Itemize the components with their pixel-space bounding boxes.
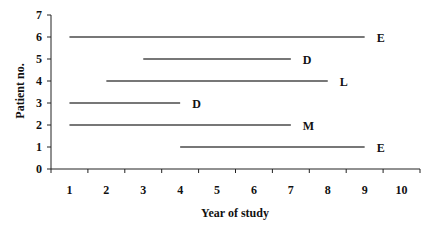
y-tick-label: 1 (36, 140, 42, 154)
y-axis-ticks: 01234567 (36, 8, 51, 176)
y-tick-label: 5 (36, 52, 42, 66)
outcome-label: M (303, 119, 314, 133)
patient-line-5: D (143, 53, 312, 67)
patient-line-4: L (106, 75, 347, 89)
y-axis-label: Patient no. (13, 63, 27, 118)
patient-line-2: M (69, 119, 314, 133)
outcome-label: E (377, 31, 385, 45)
x-tick-label: 10 (396, 183, 408, 197)
patient-lines: EDLDME (69, 31, 384, 155)
x-tick-label: 2 (103, 183, 109, 197)
x-axis-ticks: 12345678910 (51, 169, 420, 197)
outcome-label: D (192, 97, 201, 111)
y-tick-label: 7 (36, 8, 42, 22)
patient-line-6: E (69, 31, 384, 45)
x-tick-label: 6 (251, 183, 257, 197)
x-tick-label: 8 (325, 183, 331, 197)
x-tick-label: 9 (362, 183, 368, 197)
x-tick-label: 4 (177, 183, 183, 197)
x-axis-label: Year of study (201, 206, 269, 220)
x-tick-label: 3 (140, 183, 146, 197)
x-tick-label: 5 (214, 183, 220, 197)
x-tick-label: 7 (288, 183, 294, 197)
patient-line-3: D (69, 97, 201, 111)
patient-line-1: E (180, 141, 385, 155)
y-tick-label: 3 (36, 96, 42, 110)
outcome-label: L (340, 75, 348, 89)
outcome-label: E (377, 141, 385, 155)
y-tick-label: 4 (36, 74, 42, 88)
y-tick-label: 2 (36, 118, 42, 132)
outcome-label: D (303, 53, 312, 67)
patient-timeline-chart: 01234567 12345678910 EDLDME Patient no. … (0, 0, 437, 230)
x-tick-label: 1 (66, 183, 72, 197)
y-tick-label: 6 (36, 30, 42, 44)
axes (51, 15, 420, 169)
y-tick-label: 0 (36, 162, 42, 176)
